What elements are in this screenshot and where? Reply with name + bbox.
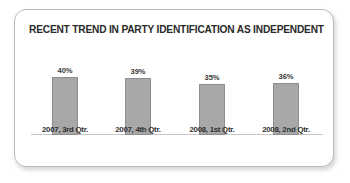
category-label: 2007, 3rd Qtr. bbox=[29, 125, 101, 134]
bar-group: 39% 2007, 4th Qtr. bbox=[102, 51, 174, 135]
chart-title: RECENT TREND IN PARTY IDENTIFICATION AS … bbox=[29, 24, 321, 35]
bar-group: 35% 2008, 1st Qtr. bbox=[176, 51, 248, 135]
chart-card: RECENT TREND IN PARTY IDENTIFICATION AS … bbox=[14, 9, 334, 167]
category-label: 2007, 4th Qtr. bbox=[102, 125, 174, 134]
category-label: 2008, 1st Qtr. bbox=[176, 125, 248, 134]
bar-value-label: 40% bbox=[29, 66, 101, 75]
bar-value-label: 39% bbox=[102, 67, 174, 76]
category-label: 2008, 2nd Qtr. bbox=[250, 125, 322, 134]
bar-value-label: 36% bbox=[250, 72, 322, 81]
plot-area: 40% 2007, 3rd Qtr. 39% 2007, 4th Qtr. 35… bbox=[29, 52, 323, 153]
bar-group: 40% 2007, 3rd Qtr. bbox=[29, 51, 101, 135]
bar-value-label: 35% bbox=[176, 73, 248, 82]
bar-group: 36% 2008, 2nd Qtr. bbox=[250, 51, 322, 135]
